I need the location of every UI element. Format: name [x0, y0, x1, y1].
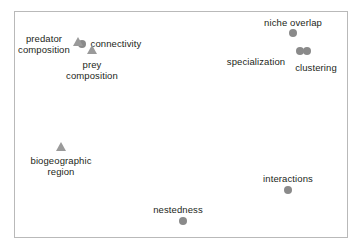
data-point-marker [179, 217, 187, 225]
data-point-marker [303, 47, 311, 55]
point-label: niche overlap [113, 17, 361, 28]
data-point-marker [56, 142, 66, 151]
plot-area: niche overlapspecializationclusteringcon… [0, 0, 361, 250]
point-label: nestedness [0, 204, 359, 215]
data-point-marker [87, 45, 97, 54]
data-point-marker [284, 186, 292, 194]
point-label: prey composition [0, 59, 273, 81]
data-point-marker [73, 37, 83, 46]
point-label: interactions [108, 173, 361, 184]
data-point-marker [289, 29, 297, 37]
point-label: predator composition [0, 33, 225, 55]
scatter-plot-figure: niche overlapspecializationclusteringcon… [0, 0, 361, 250]
